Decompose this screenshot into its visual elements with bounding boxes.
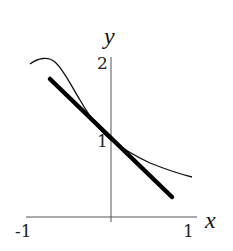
y-tick-label: 2: [97, 53, 108, 73]
x-tick-label: 1: [183, 221, 194, 241]
x-axis-label: x: [204, 207, 216, 233]
y-axis-label: y: [102, 23, 115, 49]
x-tick-label: -1: [15, 221, 32, 241]
y-tick-label: 1: [97, 131, 108, 151]
chart: -1 1 1 2 x y: [0, 0, 233, 251]
